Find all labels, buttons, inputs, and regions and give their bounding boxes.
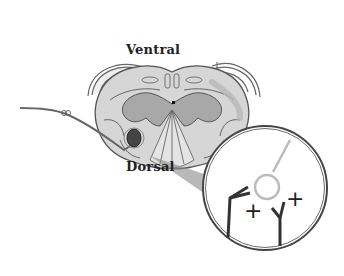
electrode-implant (127, 129, 141, 147)
plus-symbol-left: + (244, 198, 262, 223)
dorsal-label: Dorsal (126, 159, 175, 174)
central-canal (172, 101, 175, 104)
plus-symbol-right: + (286, 186, 304, 211)
ventral-label: Ventral (126, 42, 180, 57)
inset-magnification: + + (203, 126, 327, 250)
